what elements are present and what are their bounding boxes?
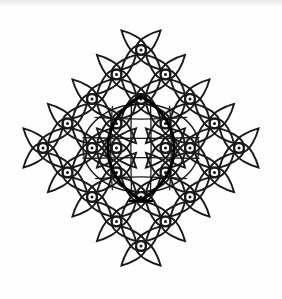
lattice-dot: [115, 122, 118, 125]
lattice-dot: [140, 245, 143, 248]
lattice-dot: [189, 196, 192, 199]
lattice-dot: [164, 122, 167, 125]
lattice-dot: [66, 171, 69, 174]
lattice-dot: [115, 220, 118, 223]
lattice-dot: [164, 171, 167, 174]
lattice-dot: [140, 49, 143, 52]
lattice-dot: [91, 196, 94, 199]
artwork-frame: Kolam Lattice Diagram: [0, 0, 282, 299]
lattice-dot: [115, 73, 118, 76]
lattice-dot: [140, 98, 143, 101]
lattice-dot: [213, 122, 216, 125]
lattice-dot: [164, 73, 167, 76]
lattice-dot: [189, 147, 192, 150]
lattice-dot: [115, 171, 118, 174]
lattice-dot: [164, 147, 167, 150]
lattice-dot: [91, 147, 94, 150]
lattice-dot: [238, 147, 241, 150]
lattice-dot: [140, 196, 143, 199]
lattice-dot: [91, 98, 94, 101]
lattice-dot: [164, 220, 167, 223]
kolam-drawing: [0, 0, 282, 299]
lattice-dot: [115, 147, 118, 150]
lattice-dot: [213, 171, 216, 174]
lattice-dot: [189, 98, 192, 101]
lattice-dot: [42, 147, 45, 150]
lattice-dot: [66, 122, 69, 125]
